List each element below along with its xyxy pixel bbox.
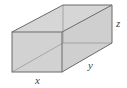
label-x: x (35, 75, 40, 86)
front-face (12, 32, 62, 72)
label-z: z (116, 18, 120, 29)
label-y: y (88, 60, 93, 71)
box-diagram (0, 0, 127, 88)
